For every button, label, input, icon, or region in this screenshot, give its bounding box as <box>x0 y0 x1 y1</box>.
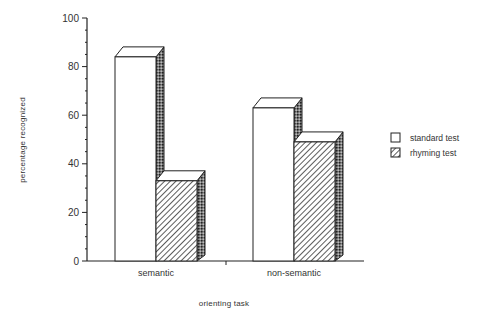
legend-label: rhyming test <box>410 148 457 158</box>
bar-chart: 020406080100 semantic non-semantic orien… <box>0 0 477 323</box>
legend-swatch-white <box>391 133 400 142</box>
bar-semantic-rhyming-test <box>156 171 205 261</box>
category-label-non-semantic: non-semantic <box>267 268 322 278</box>
bar-non-semantic-rhyming-test <box>294 132 343 261</box>
legend: standard test rhyming test <box>391 133 460 158</box>
bars <box>115 47 343 261</box>
x-axis-title: orienting task <box>199 299 250 308</box>
y-tick-label: 20 <box>68 207 80 218</box>
legend-swatch-hatched <box>391 148 400 157</box>
legend-item-rhyming-test: rhyming test <box>391 148 457 158</box>
y-tick-label: 100 <box>62 13 79 24</box>
legend-item-standard-test: standard test <box>391 133 460 143</box>
legend-label: standard test <box>410 133 460 143</box>
y-axis: 020406080100 <box>62 13 87 267</box>
y-tick-label: 0 <box>73 256 79 267</box>
y-axis-title: percentage recognized <box>18 97 27 183</box>
y-tick-label: 80 <box>68 61 80 72</box>
y-tick-label: 60 <box>68 110 80 121</box>
y-tick-label: 40 <box>68 158 80 169</box>
x-axis <box>87 261 364 265</box>
category-label-semantic: semantic <box>138 268 175 278</box>
